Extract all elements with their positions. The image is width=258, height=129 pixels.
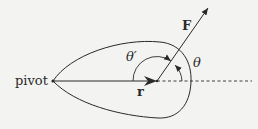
theta-label: θ (193, 56, 201, 69)
force-application-point (156, 80, 159, 83)
pivot-label: pivot (15, 74, 48, 87)
theta-prime-label: θ′ (126, 50, 137, 63)
torque-diagram: pivot F r θ′ θ (0, 0, 258, 129)
force-label: F (182, 19, 191, 32)
theta-arc (175, 65, 182, 81)
position-label: r (137, 85, 144, 98)
diagram-canvas (0, 0, 258, 129)
rigid-body-outline (53, 41, 191, 118)
